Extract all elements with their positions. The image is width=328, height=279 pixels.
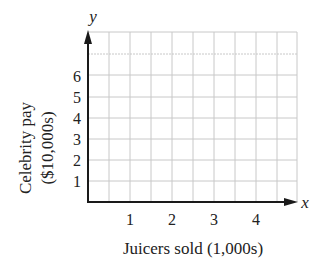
- svg-text:2: 2: [73, 152, 81, 169]
- svg-text:4: 4: [252, 211, 260, 228]
- svg-text:3: 3: [210, 211, 218, 228]
- svg-text:1: 1: [126, 211, 134, 228]
- svg-text:($10,000s): ($10,000s): [38, 111, 57, 184]
- x-tick-labels: 1 2 3 4: [126, 211, 260, 228]
- svg-text:4: 4: [73, 110, 81, 127]
- svg-text:3: 3: [73, 131, 81, 148]
- x-axis-arrow-icon: [284, 198, 298, 206]
- y-axis-title: Celebrity pay ($10,000s): [16, 101, 57, 194]
- axes: [87, 40, 288, 203]
- svg-text:5: 5: [73, 89, 81, 106]
- svg-text:1: 1: [73, 173, 81, 190]
- chart-canvas: y x 1 2 3 4 5 6 1 2 3 4 Juicers sold (1,…: [0, 0, 328, 279]
- x-axis-title: Juicers sold (1,000s): [123, 239, 263, 258]
- svg-text:6: 6: [73, 68, 81, 85]
- svg-text:Celebrity pay: Celebrity pay: [16, 101, 35, 194]
- svg-text:2: 2: [168, 211, 176, 228]
- y-tick-labels: 1 2 3 4 5 6: [73, 68, 81, 190]
- grid: [88, 32, 297, 202]
- x-axis-variable: x: [300, 193, 309, 212]
- y-axis-variable: y: [87, 7, 97, 26]
